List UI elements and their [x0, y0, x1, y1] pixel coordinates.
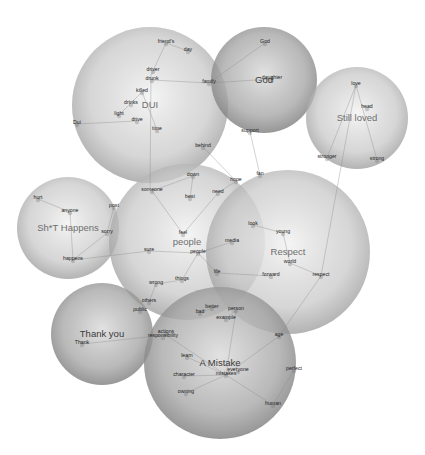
edge	[250, 132, 260, 175]
word-node[interactable]: owning	[178, 388, 195, 394]
word-node[interactable]: hurt	[34, 194, 43, 200]
word-node[interactable]: driver	[147, 66, 160, 72]
word-node[interactable]: public	[133, 306, 147, 312]
word-node[interactable]: light	[114, 110, 124, 116]
word-node[interactable]: learn	[181, 352, 193, 358]
word-node[interactable]: day	[184, 46, 193, 52]
word-node[interactable]: others	[142, 297, 157, 303]
word-node[interactable]: bad	[196, 308, 205, 314]
word-node[interactable]: things	[175, 275, 189, 281]
word-node[interactable]: respect	[312, 271, 330, 277]
word-node[interactable]: young	[276, 228, 290, 234]
word-node[interactable]: behind	[195, 142, 211, 148]
word-node[interactable]: mistakes	[216, 370, 237, 376]
word-node[interactable]: down	[187, 171, 200, 177]
cluster-label-thank_you: Thank you	[80, 328, 124, 339]
bubble-network-diagram: friend'sdaydriverdrunkfamilykilleddrinks…	[0, 0, 425, 455]
word-node[interactable]: happens	[63, 255, 83, 261]
word-node[interactable]: anyone	[61, 207, 78, 213]
word-node[interactable]: sure	[144, 246, 154, 252]
word-node[interactable]: person	[228, 305, 244, 311]
word-node[interactable]: human	[265, 400, 281, 406]
word-node[interactable]: killed	[136, 87, 148, 93]
word-node[interactable]: feel	[179, 229, 187, 235]
word-node[interactable]: hope	[230, 176, 242, 182]
word-node[interactable]: drinks	[124, 99, 138, 105]
cluster-label-people: people	[173, 236, 202, 247]
word-node[interactable]: world	[284, 258, 297, 264]
cluster-label-respect: Respect	[271, 246, 306, 257]
word-node[interactable]: someone	[141, 186, 162, 192]
word-node[interactable]: head	[361, 103, 373, 109]
cluster-label-dui: DUI	[142, 99, 158, 110]
word-node[interactable]: media	[225, 237, 239, 243]
cluster-label-shit_happens: Sh*T Happens	[37, 222, 99, 233]
word-node[interactable]: God	[260, 38, 270, 44]
cluster-layer	[17, 27, 408, 439]
word-node[interactable]: friend's	[158, 38, 175, 44]
word-node[interactable]: drive	[131, 116, 142, 122]
word-node[interactable]: love	[351, 80, 361, 86]
word-node[interactable]: responsibility	[148, 332, 178, 338]
word-node[interactable]: best	[185, 193, 195, 199]
word-node[interactable]: better	[205, 303, 219, 309]
word-node[interactable]: age	[275, 331, 284, 337]
word-node[interactable]: Dui	[73, 119, 81, 125]
word-node[interactable]: perfect	[286, 365, 302, 371]
word-node[interactable]: time	[152, 125, 162, 131]
cluster-label-god: God	[255, 74, 273, 85]
word-node[interactable]: people	[190, 248, 206, 254]
cluster-label-still_loved: Still loved	[337, 112, 378, 123]
word-node[interactable]: fan	[256, 170, 263, 176]
word-node[interactable]: family	[202, 78, 216, 84]
word-node[interactable]: wrong	[149, 279, 163, 285]
word-node[interactable]: strong	[370, 155, 385, 161]
word-node[interactable]: forward	[262, 271, 279, 277]
word-node[interactable]: sorry	[101, 228, 113, 234]
word-node[interactable]: Thank	[75, 339, 90, 345]
word-node[interactable]: support	[241, 127, 259, 133]
word-node[interactable]: life	[214, 268, 221, 274]
word-node[interactable]: stronger	[317, 153, 336, 159]
word-node[interactable]: look	[248, 220, 258, 226]
word-node[interactable]: example	[216, 314, 236, 320]
cluster-label-a_mistake: A Mistake	[199, 357, 240, 368]
word-node[interactable]: post	[109, 202, 119, 208]
word-node[interactable]: drunk	[146, 75, 159, 81]
word-node[interactable]: character	[173, 371, 195, 377]
word-node[interactable]: need	[212, 188, 224, 194]
